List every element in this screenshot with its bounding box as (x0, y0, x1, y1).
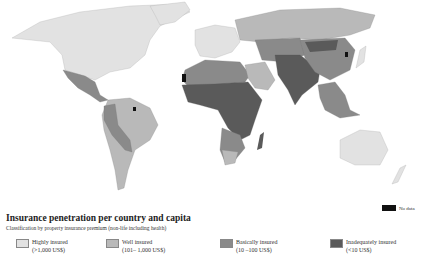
legend-label: Well insured (122, 238, 165, 246)
no-data-label: No data (399, 206, 415, 211)
legend-range: (10 –100 US$) (236, 246, 278, 254)
region-southeast-asia (318, 82, 360, 118)
legend-item-inadequate: Inadequately insured (<10 US$) (330, 238, 396, 254)
legend-swatch (220, 239, 233, 248)
region-russia (235, 8, 375, 42)
legend-no-data: No data (382, 205, 415, 211)
no-data-swatch (382, 205, 396, 211)
map-title: Insurance penetration per country and ca… (6, 213, 191, 223)
region-south-africa (222, 150, 238, 165)
legend-item-highly: Highly insured (>1,000 US$) (16, 238, 68, 254)
legend-item-well: Well insured (101– 1,000 US$) (106, 238, 165, 254)
legend-label: Highly insured (32, 238, 68, 246)
legend-range: (101– 1,000 US$) (122, 246, 165, 254)
region-madagascar (257, 132, 264, 150)
region-europe (195, 25, 240, 58)
region-australia (340, 130, 388, 165)
region-western-sahara (182, 74, 186, 82)
region-french-guiana (133, 107, 136, 111)
region-north-korea (345, 52, 348, 57)
legend-item-basic: Basically insured (10 –100 US$) (220, 238, 278, 254)
legend-range: (<10 US$) (346, 246, 396, 254)
legend-range: (>1,000 US$) (32, 246, 68, 254)
world-map (0, 0, 426, 200)
legend-swatch (16, 239, 29, 248)
region-new-zealand (392, 165, 406, 184)
region-mongolia (305, 40, 338, 52)
legend-label: Inadequately insured (346, 238, 396, 246)
legend-label: Basically insured (236, 238, 278, 246)
region-japan (356, 46, 366, 68)
legend-swatch (330, 239, 343, 248)
map-subtitle: Classification by property insurance pre… (6, 225, 166, 231)
legend-swatch (106, 239, 119, 248)
